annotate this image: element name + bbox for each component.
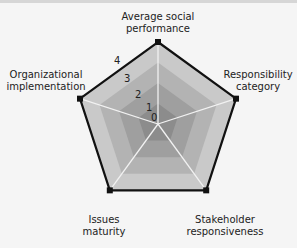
data-point-marker [233, 96, 239, 102]
label-line: Stakeholder [180, 214, 270, 226]
axis-label-average-social-performance: Average social performance [108, 11, 208, 35]
axis-label-responsibility-category: Responsibility category [220, 69, 296, 93]
scale-tick-0: 0 [151, 113, 157, 123]
label-line: maturity [74, 226, 134, 238]
radar-chart [0, 0, 297, 248]
data-point-marker [77, 96, 83, 102]
label-line: responsiveness [180, 226, 270, 238]
label-line: Responsibility [220, 69, 296, 81]
scale-tick-3: 3 [124, 74, 130, 84]
scale-tick-2: 2 [135, 90, 141, 100]
axis-label-issues-maturity: Issues maturity [74, 214, 134, 238]
data-point-marker [155, 39, 161, 45]
data-point-marker [203, 187, 209, 193]
label-line: Issues [74, 214, 134, 226]
axis-label-organizational-implementation: Organizational implementation [4, 69, 88, 93]
label-line: Organizational [4, 69, 88, 81]
scale-tick-4: 4 [114, 56, 120, 66]
data-point-marker [107, 187, 113, 193]
label-line: Average social [108, 11, 208, 23]
label-line: implementation [4, 81, 88, 93]
label-line: performance [108, 23, 208, 35]
label-line: category [220, 81, 296, 93]
axis-label-stakeholder-responsiveness: Stakeholder responsiveness [180, 214, 270, 238]
